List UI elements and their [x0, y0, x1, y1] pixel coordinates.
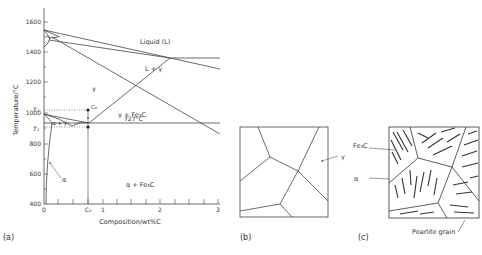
grain-frame-b [240, 127, 328, 217]
phase-diagram [44, 8, 220, 204]
figure-canvas: 1600 1400 1200 1000 800 600 400 T₁ T₂ 0 … [0, 0, 482, 255]
l-gamma-label: L + γ [145, 65, 162, 73]
svg-text:3: 3 [216, 206, 220, 213]
panel-b-label: (b) [240, 233, 251, 242]
pearlite-grain-label: Pearlite grain [412, 228, 455, 236]
alpha-fe3c-label: α + Fe₃C [126, 181, 155, 189]
alpha-pointer [369, 178, 390, 179]
liquid-label: Liquid (L) [140, 38, 170, 46]
svg-text:400: 400 [30, 200, 42, 207]
x-tick-labels: 0 1 2 3 C₀ [42, 206, 220, 213]
svg-text:1200: 1200 [26, 78, 41, 85]
svg-text:1600: 1600 [26, 18, 41, 25]
gamma-grain-label: γ [341, 153, 345, 161]
svg-text:2: 2 [158, 206, 162, 213]
panel-a-label: (a) [3, 233, 14, 242]
svg-text:600: 600 [30, 170, 42, 177]
y-axis-label: Temperature/°C [12, 84, 20, 137]
pearlite-grains [369, 127, 479, 232]
alpha-label: α [62, 176, 66, 184]
alpha-solvus [46, 123, 52, 204]
gamma-label: γ [92, 85, 96, 93]
x-axis-label: Composition/wt%C [99, 218, 161, 226]
fe3c-pointer [369, 148, 395, 150]
fe3c-label: Fe₃C [353, 142, 368, 150]
x-axis-ticks [58, 199, 218, 204]
region-labels: Liquid (L) L + γ γ γ + Fe₃C α + γ α α + … [52, 38, 170, 189]
c0-point-label: C₀ [91, 104, 98, 110]
pearlite-pointer [458, 220, 465, 232]
t1-label: T₁ [33, 106, 40, 113]
c0-point-t1 [86, 108, 89, 111]
austenite-grains [240, 127, 338, 217]
eutectoid-temp-label: 727°C [124, 115, 143, 122]
svg-text:1400: 1400 [26, 48, 41, 55]
liquidus-line [44, 30, 220, 69]
svg-text:0: 0 [42, 206, 46, 213]
svg-text:C₀: C₀ [85, 206, 92, 213]
fe3c-lamellae [391, 128, 478, 214]
alpha-gamma-label: α + γ [52, 120, 68, 127]
panel-c-label: (c) [358, 233, 369, 242]
alpha-label-c: α [354, 175, 358, 183]
svg-text:800: 800 [30, 140, 42, 147]
t2-label: T₂ [33, 125, 40, 132]
svg-text:1: 1 [101, 206, 105, 213]
grain-frame-c [389, 127, 479, 218]
c0-point-t2 [86, 125, 89, 128]
